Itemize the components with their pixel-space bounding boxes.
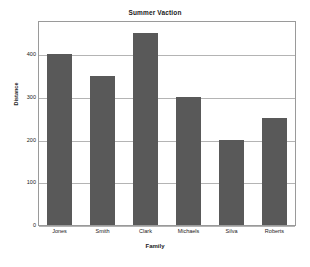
bar[interactable] [90, 76, 114, 225]
x-tick-label: Jones [38, 228, 81, 234]
x-tick-label: Silva [210, 228, 253, 234]
gridline [39, 226, 295, 227]
x-axis-title: Family [0, 243, 310, 249]
y-tick-label: 0 [10, 222, 36, 228]
y-tick-label: 400 [10, 51, 36, 57]
x-tick-label: Michaels [167, 228, 210, 234]
y-tick-label: 200 [10, 137, 36, 143]
bars-layer [38, 21, 296, 226]
bar[interactable] [262, 118, 286, 225]
x-tick-label: Roberts [253, 228, 296, 234]
chart-title: Summer Vaction [0, 9, 310, 16]
y-tick-label: 300 [10, 94, 36, 100]
bar[interactable] [47, 54, 71, 225]
y-tick-label: 100 [10, 179, 36, 185]
x-tick-label: Smith [81, 228, 124, 234]
x-tick-label: Clark [124, 228, 167, 234]
bar[interactable] [176, 97, 200, 225]
chart-figure: Summer Vaction Distance 0100200300400 Jo… [0, 0, 310, 267]
bar[interactable] [219, 140, 243, 225]
y-axis-tick-labels: 0100200300400 [6, 21, 36, 226]
bar[interactable] [133, 33, 157, 225]
x-axis-tick-labels: JonesSmithClarkMichaelsSilvaRoberts [38, 228, 296, 240]
